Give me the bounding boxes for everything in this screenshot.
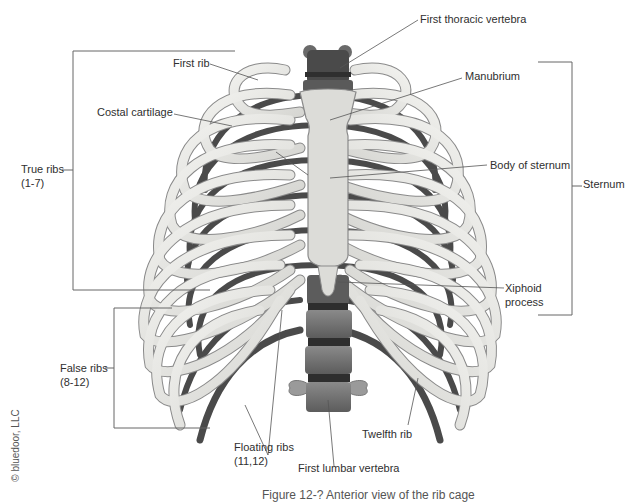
anterior-ribs-left [144, 68, 300, 425]
label-costal-cartilage: Costal cartilage [97, 106, 173, 119]
anterior-ribs-right [340, 68, 496, 425]
first-thoracic-vertebra-shape [303, 45, 353, 92]
label-first-lumbar-vertebra: First lumbar vertebra [298, 462, 399, 475]
label-true-ribs-range: (1-7) [21, 177, 44, 190]
label-xiphoid-process-line2: process [505, 296, 544, 309]
label-false-ribs: False ribs [60, 362, 108, 375]
label-false-ribs-range: (8-12) [60, 376, 89, 389]
label-xiphoid-process-line1: Xiphoid [505, 282, 542, 295]
sternum-bracket [538, 62, 572, 315]
figure-caption: Figure 12-? Anterior view of the rib cag… [262, 488, 475, 502]
label-floating-ribs: Floating ribs [234, 441, 294, 454]
label-first-rib: First rib [173, 57, 210, 70]
copyright-credit: © bluedoor, LLC [10, 401, 21, 491]
label-true-ribs: True ribs [21, 163, 64, 176]
label-body-of-sternum: Body of sternum [490, 159, 570, 172]
label-sternum: Sternum [583, 178, 625, 191]
label-twelfth-rib: Twelfth rib [362, 428, 412, 441]
label-floating-ribs-range: (11,12) [234, 455, 268, 468]
label-manubrium: Manubrium [465, 70, 520, 83]
label-first-thoracic-vertebra: First thoracic vertebra [420, 13, 526, 26]
